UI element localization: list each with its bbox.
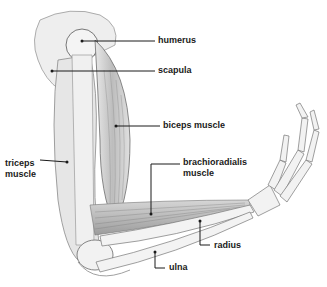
label-triceps-line2: muscle <box>5 169 36 180</box>
arm-anatomy-diagram: humerus scapula biceps muscle brachiorad… <box>0 0 327 287</box>
humerus-shaft <box>72 55 94 245</box>
label-scapula: scapula <box>158 65 192 76</box>
biceps-shape <box>95 40 130 225</box>
label-ulna: ulna <box>169 262 188 273</box>
label-radius: radius <box>214 240 241 251</box>
hand-bones <box>248 103 319 216</box>
label-humerus: humerus <box>158 35 196 46</box>
label-brachioradialis-line2: muscle <box>183 168 214 179</box>
label-triceps-line1: triceps <box>5 158 35 169</box>
label-brachioradialis-line1: brachioradialis <box>183 157 247 168</box>
label-biceps-muscle: biceps muscle <box>163 120 225 131</box>
